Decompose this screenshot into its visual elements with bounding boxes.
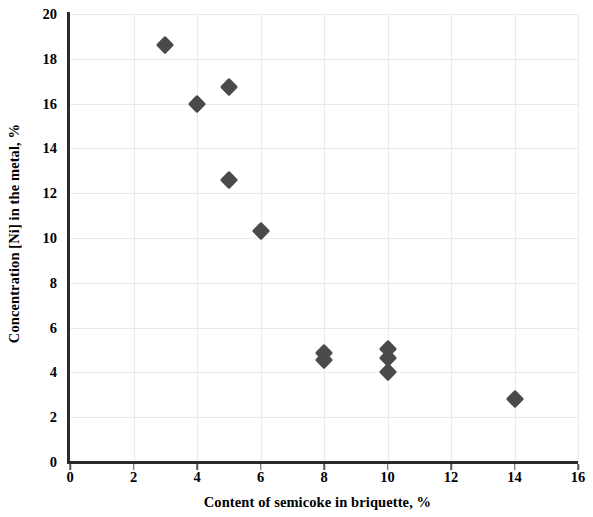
y-axis-line: [67, 12, 70, 464]
y-axis-tick-label: 16: [23, 96, 57, 111]
gridline-vertical: [134, 14, 135, 462]
x-axis-tick-mark: [133, 464, 135, 470]
gridline-vertical: [578, 14, 579, 462]
y-axis-title-text: Concentration [Ni] in the metal, %: [7, 123, 24, 342]
data-point: [378, 363, 396, 381]
data-point: [220, 78, 238, 96]
y-axis-tick-label: 12: [23, 186, 57, 201]
x-axis-tick-mark: [577, 464, 579, 470]
x-axis-tick-mark: [387, 464, 389, 470]
x-axis-tick-label: 0: [66, 470, 73, 485]
y-axis-tick-label: 18: [23, 52, 57, 67]
x-axis-tick-mark: [260, 464, 262, 470]
data-point: [220, 171, 238, 189]
x-axis-tick-labels: 0246810121416: [0, 470, 593, 492]
x-axis-tick-mark: [514, 464, 516, 470]
x-axis-tick-label: 4: [193, 470, 200, 485]
gridline-vertical: [197, 14, 198, 462]
y-axis-tick-label: 6: [23, 320, 57, 335]
x-axis-tick-mark: [323, 464, 325, 470]
x-axis-tick-label: 14: [507, 470, 522, 485]
x-axis-tick-label: 2: [130, 470, 137, 485]
x-axis-tick-label: 10: [380, 470, 395, 485]
scatter-chart: Concentration [Ni] in the metal, % 02468…: [0, 0, 593, 517]
x-axis-title: Content of semicoke in briquette, %: [60, 494, 575, 511]
x-axis-tick-mark: [450, 464, 452, 470]
gridline-vertical: [324, 14, 325, 462]
x-axis-tick-label: 16: [571, 470, 586, 485]
plot-area: [70, 14, 578, 462]
y-axis-tick-label: 8: [23, 276, 57, 291]
data-point: [505, 390, 523, 408]
gridline-vertical: [388, 14, 389, 462]
y-axis-tick-label: 14: [23, 141, 57, 156]
x-axis-tick-label: 12: [444, 470, 459, 485]
x-axis-tick-label: 8: [320, 470, 327, 485]
data-point: [188, 94, 206, 112]
y-axis-tick-labels: 02468101214161820: [23, 0, 57, 517]
gridline-vertical: [451, 14, 452, 462]
x-axis-tick-mark: [196, 464, 198, 470]
y-axis-tick-label: 10: [23, 231, 57, 246]
y-axis-tick-label: 4: [23, 365, 57, 380]
y-axis-tick-label: 20: [23, 7, 57, 22]
x-axis-tick-mark: [69, 464, 71, 470]
y-axis-tick-label: 2: [23, 410, 57, 425]
x-axis-tick-label: 6: [257, 470, 264, 485]
y-axis-tick-label: 0: [23, 455, 57, 470]
data-point: [156, 36, 174, 54]
